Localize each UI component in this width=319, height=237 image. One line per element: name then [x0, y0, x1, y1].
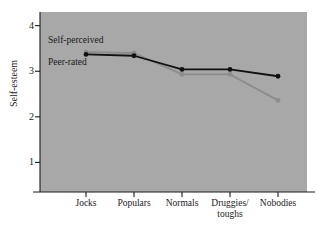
- y-axis-title: Self-esteem: [8, 49, 19, 119]
- x-axis-tick-label-druggies-toughs: Druggies/ toughs: [211, 198, 248, 219]
- data-point-marker: [276, 74, 281, 79]
- data-point-marker: [180, 72, 185, 77]
- y-axis-tick-label: 4: [20, 21, 34, 31]
- y-axis-tick-label: 2: [20, 112, 34, 122]
- x-axis-ticks: [86, 192, 278, 197]
- y-axis-tick-label: 1: [20, 157, 34, 167]
- data-point-marker: [276, 98, 281, 103]
- x-axis-tick-label-populars: Populars: [117, 198, 150, 209]
- series-annotation-peer-rated: Peer-rated: [48, 57, 87, 67]
- data-point-marker: [228, 67, 233, 72]
- y-axis-tick-labels: 1234: [16, 0, 34, 237]
- x-axis-tick-label-jocks: Jocks: [75, 198, 96, 209]
- y-axis-ticks: [35, 26, 40, 163]
- chart-figure: 1234 Jocks Populars Normals Druggies/ to…: [0, 0, 319, 237]
- x-axis-tick-label-normals: Normals: [166, 198, 199, 209]
- data-point-marker: [228, 72, 233, 77]
- x-axis-tick-label-nobodies: Nobodies: [260, 198, 296, 209]
- series-annotation-self-perceived: Self-perceived: [48, 35, 103, 45]
- data-point-marker: [132, 53, 137, 58]
- data-series-group: [84, 50, 281, 103]
- series-self-perceived: [84, 50, 281, 103]
- data-point-marker: [180, 67, 185, 72]
- y-axis-tick-label: 3: [20, 66, 34, 76]
